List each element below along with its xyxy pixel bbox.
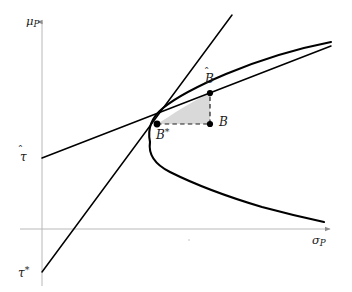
point-label-b-star-superscript: * (165, 126, 170, 137)
point-label-b: B (219, 116, 228, 128)
x-axis-label: σP (312, 235, 326, 248)
tick-label-tau-hat: ̂τ (20, 150, 27, 163)
x-axis-tick-mark (188, 239, 190, 241)
capital-market-line-tau-hat (42, 46, 331, 158)
hyperbola-lower-branch (150, 142, 324, 222)
point-b (207, 121, 213, 127)
tick-label-tau-star-superscript: * (25, 264, 30, 275)
shaded-triangle-region (157, 93, 210, 124)
point-label-b-base: B (219, 115, 228, 129)
mean-variance-frontier-figure: μP σP ̂τ τ* ̂B B B* (0, 0, 352, 292)
plot-canvas (0, 0, 352, 292)
tick-label-tau-hat-base: τ (20, 150, 27, 164)
point-label-b-star: B* (156, 127, 170, 141)
point-label-b-hat-base: B (205, 72, 214, 86)
y-axis-label: μP (26, 16, 39, 29)
point-b-hat (207, 90, 213, 96)
y-axis-label-subscript: P (33, 19, 39, 29)
point-label-b-hat: ̂B (205, 72, 214, 85)
tick-label-tau-star-base: τ (18, 266, 25, 280)
point-label-b-star-base: B (156, 128, 165, 142)
tick-label-tau-star: τ* (18, 265, 29, 279)
x-axis-label-base: σ (312, 233, 320, 247)
x-axis-label-subscript: P (320, 238, 326, 248)
capital-market-line-tau-star (42, 15, 232, 272)
